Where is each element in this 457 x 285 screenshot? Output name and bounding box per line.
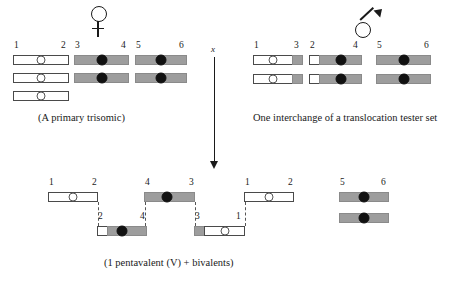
centromere-open bbox=[269, 75, 278, 84]
centromere-open bbox=[269, 56, 278, 65]
mars-circle bbox=[355, 22, 371, 38]
arm-label-female-1: 1 bbox=[14, 41, 19, 51]
descent-arrow-head bbox=[210, 161, 218, 169]
chromosome-1-2-b bbox=[13, 73, 69, 83]
female-parent-caption: (A primary trisomic) bbox=[38, 112, 125, 124]
arm-label-pent-upper-3: 3 bbox=[189, 178, 194, 188]
arm-segment-white bbox=[204, 226, 245, 236]
centromere-filled bbox=[335, 55, 346, 66]
arm-label-female-6: 6 bbox=[179, 41, 184, 51]
chromosome-3-4-a bbox=[74, 55, 129, 65]
progeny-chromosome-5-6-a bbox=[339, 192, 389, 202]
arm-segment-white bbox=[253, 55, 293, 65]
chromosome-1-2-c bbox=[13, 91, 69, 101]
arm-label-pent-upper-1: 1 bbox=[49, 178, 54, 188]
pentavalent-chromosome-3-1 bbox=[194, 226, 245, 236]
centromere-filled bbox=[335, 74, 346, 85]
arm-label-male-6: 6 bbox=[424, 41, 429, 51]
arm-label-pent-lower-3: 3 bbox=[195, 212, 200, 222]
centromere-filled bbox=[359, 213, 370, 224]
arm-segment-gray bbox=[319, 74, 362, 84]
mars-arrow-head bbox=[369, 8, 383, 22]
chromosome-2-4-a bbox=[309, 55, 362, 65]
venus-circle bbox=[91, 6, 107, 22]
female-venus-symbol bbox=[88, 6, 110, 40]
centromere-filled bbox=[156, 55, 167, 66]
arm-label-pent-upper-right-1: 1 bbox=[245, 178, 250, 188]
progeny-caption: (1 pentavalent (V) + bivalents) bbox=[104, 257, 234, 269]
descent-arrow-shaft bbox=[214, 57, 215, 163]
cross-symbol-x: x bbox=[211, 44, 215, 54]
arm-segment-gray bbox=[319, 55, 362, 65]
arm-label-male-5: 5 bbox=[377, 41, 382, 51]
centromere-filled bbox=[162, 192, 173, 203]
arm-label-progeny-6: 6 bbox=[381, 178, 386, 188]
centromere-open bbox=[37, 74, 46, 83]
centromere-open bbox=[37, 56, 46, 65]
arm-segment-gray-translocated bbox=[292, 74, 303, 84]
chromosome-1-2-a bbox=[13, 55, 69, 65]
pentavalent-chromosome-4-3 bbox=[144, 192, 195, 202]
arm-label-female-4: 4 bbox=[121, 41, 126, 51]
pentavalent-chromosome-2-4 bbox=[97, 226, 147, 236]
centromere-open bbox=[37, 92, 46, 101]
chromosome-3-4-b bbox=[74, 73, 129, 83]
chromosome-male-5-6-a bbox=[376, 55, 431, 65]
arm-label-male-4: 4 bbox=[353, 41, 358, 51]
arm-segment-gray-translocated bbox=[292, 55, 303, 65]
progeny-chromosome-5-6-b bbox=[339, 213, 389, 223]
pentavalent-chromosome-1-2 bbox=[48, 192, 98, 202]
chromosome-5-6-a bbox=[135, 55, 187, 65]
arm-label-female-5: 5 bbox=[136, 41, 141, 51]
arm-label-pent-lower-1: 1 bbox=[236, 212, 241, 222]
centromere-filled bbox=[117, 226, 128, 237]
centromere-open bbox=[220, 227, 229, 236]
pairing-connector-2-2 bbox=[98, 202, 99, 226]
arm-segment-gray bbox=[107, 226, 147, 236]
arm-label-female-3: 3 bbox=[75, 41, 80, 51]
pairing-connector-4-4 bbox=[145, 202, 146, 226]
pentavalent-chromosome-1-2-right bbox=[244, 192, 294, 202]
centromere-filled bbox=[96, 55, 107, 66]
centromere-filled bbox=[156, 73, 167, 84]
arm-label-pent-lower-2: 2 bbox=[98, 212, 103, 222]
chromosome-male-5-6-b bbox=[376, 74, 431, 84]
pairing-connector-3-3 bbox=[195, 202, 196, 226]
arm-label-progeny-5: 5 bbox=[340, 178, 345, 188]
centromere-open bbox=[265, 193, 274, 202]
centromere-filled bbox=[96, 73, 107, 84]
arm-label-male-3: 3 bbox=[294, 41, 299, 51]
centromere-filled bbox=[398, 74, 409, 85]
centromere-filled bbox=[359, 192, 370, 203]
genetics-cross-diagram: 1 2 3 4 5 6 (A primary trisomic) x bbox=[0, 0, 457, 285]
venus-cross-stroke bbox=[92, 28, 104, 29]
chromosome-2-4-b bbox=[309, 74, 362, 84]
arm-label-male-1: 1 bbox=[254, 41, 259, 51]
chromosome-5-6-b bbox=[135, 73, 187, 83]
chromosome-1-3-a bbox=[253, 55, 303, 65]
male-mars-symbol bbox=[355, 10, 389, 44]
arm-label-pent-upper-2: 2 bbox=[92, 178, 97, 188]
arm-label-pent-upper-4: 4 bbox=[145, 178, 150, 188]
centromere-filled bbox=[398, 55, 409, 66]
centromere-open bbox=[69, 193, 78, 202]
arm-label-pent-upper-right-2: 2 bbox=[288, 178, 293, 188]
chromosome-1-3-b bbox=[253, 74, 303, 84]
male-parent-caption: One interchange of a translocation teste… bbox=[253, 112, 437, 124]
arm-segment-white bbox=[253, 74, 293, 84]
pairing-connector-1-1 bbox=[245, 202, 246, 226]
arm-label-female-2: 2 bbox=[61, 41, 66, 51]
arm-label-male-2: 2 bbox=[310, 41, 315, 51]
